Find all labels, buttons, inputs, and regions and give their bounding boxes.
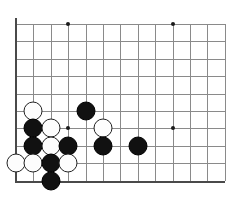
go-board-diagram[interactable] xyxy=(0,0,228,209)
grid-line-vertical-11 xyxy=(207,24,208,181)
grid-line-vertical-3 xyxy=(68,24,69,181)
grid-line-vertical-6 xyxy=(120,24,121,181)
star-point-top-right xyxy=(171,22,175,26)
grid-line-vertical-4 xyxy=(86,24,87,181)
star-point-top-left xyxy=(66,22,70,26)
grid-line-vertical-7 xyxy=(138,24,139,181)
star-point-lower-left xyxy=(66,126,70,130)
board-left-edge xyxy=(15,18,17,182)
grid-line-vertical-12 xyxy=(225,24,226,181)
grid-line-vertical-8 xyxy=(155,24,156,181)
grid-line-vertical-10 xyxy=(190,24,191,181)
grid-line-vertical-9 xyxy=(173,24,174,181)
grid-line-vertical-1 xyxy=(33,24,34,181)
grid-line-vertical-5 xyxy=(103,24,104,181)
board-grid xyxy=(0,0,228,209)
star-point-lower-right xyxy=(171,126,175,130)
grid-line-vertical-2 xyxy=(51,24,52,181)
board-bottom-edge xyxy=(15,181,225,183)
